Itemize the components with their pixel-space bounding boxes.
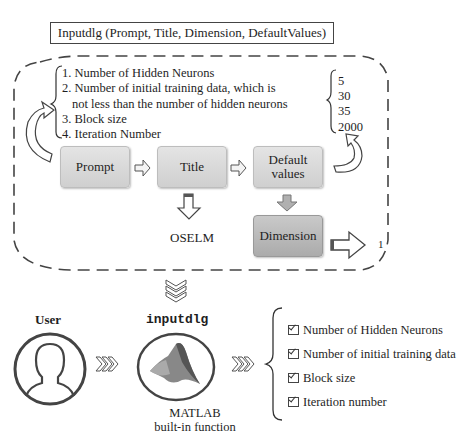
prompt-list: 1. Number of Hidden Neurons 2. Number of… [62,66,288,142]
user-icon [15,334,85,404]
left-brace [51,66,62,138]
matlab-caption-line: MATLAB [150,406,240,420]
default-values-box: Default values [253,146,323,188]
default-value: 2000 [338,120,363,135]
checklist-item: Iteration number [288,390,456,414]
default-values-list: 5 30 35 2000 [338,74,363,135]
prompt-item: 2. Number of initial training data, whic… [62,81,288,96]
checklist-item: Block size [288,366,456,390]
prompt-item: 1. Number of Hidden Neurons [62,66,288,81]
checklist-label: Number of Hidden Neurons [303,323,443,338]
title-box: Title [157,146,227,188]
title-output: OSELM [170,230,214,246]
arrow-down-icon [277,195,297,211]
prompt-box: Prompt [60,146,130,188]
matlab-caption-line: built-in function [150,420,240,434]
user-label: User [35,312,61,328]
matlab-caption: MATLAB built-in function [150,406,240,434]
default-value: 30 [338,89,363,104]
checkbox-icon [288,349,299,359]
title-label: Title [180,160,204,174]
dimension-box: Dimension [253,215,323,257]
checkbox-icon [288,397,299,407]
left-brace [266,308,282,420]
arrow-down-icon [178,194,200,219]
checklist-label: Iteration number [303,395,387,410]
checkbox-icon [288,373,299,383]
default-value: 5 [338,74,363,89]
arrow-right-icon [231,160,246,176]
function-name: inputdlg [146,312,208,327]
prompt-item: not less than the number of hidden neuro… [62,97,288,112]
left-brace [327,70,336,133]
checklist-label: Block size [303,371,355,386]
default-value: 35 [338,104,363,119]
chevrons-right-icon [232,357,254,371]
default-values-label: Default [269,153,308,167]
prompt-item: 3. Block size [62,112,288,127]
checkbox-icon [288,325,299,335]
prompt-item: 4. Iteration Number [62,127,288,142]
dimension-output: 1 [378,238,384,250]
output-checklist: Number of Hidden Neurons Number of initi… [288,318,456,414]
checklist-item: Number of Hidden Neurons [288,318,456,342]
matlab-logo-icon [138,334,214,400]
checklist-item: Number of initial training data [288,342,456,366]
dimension-label: Dimension [259,229,316,243]
chevrons-down-icon [166,280,186,302]
curved-arrow-right-icon [334,134,362,172]
default-values-label: values [271,167,304,181]
prompt-label: Prompt [76,160,114,174]
chevrons-right-icon [96,357,118,371]
arrow-right-large-icon [331,232,365,258]
checklist-label: Number of initial training data [303,347,456,362]
curved-arrow-left-icon [26,102,54,162]
arrow-right-icon [135,160,150,176]
